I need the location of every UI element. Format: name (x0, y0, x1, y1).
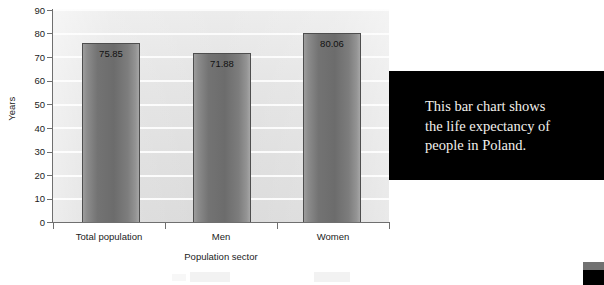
y-tick-label-40: 40 (1, 124, 45, 134)
x-tick-label-women: Women (277, 232, 389, 242)
y-axis-tick-labels: 0 10 20 30 40 50 60 70 80 90 (0, 0, 45, 285)
page-artifact-smudge-center (190, 272, 230, 282)
y-tick-label-30: 30 (1, 147, 45, 157)
x-axis-title: Population sector (53, 252, 389, 262)
bar-fill (83, 44, 139, 222)
y-tick-label-80: 80 (1, 29, 45, 39)
y-tick-label-0: 0 (1, 218, 45, 228)
bar-value-men: 71.88 (194, 59, 250, 69)
bar-value-women: 80.06 (304, 39, 360, 49)
x-tick-mark-3 (389, 223, 390, 229)
gridline-90 (53, 9, 389, 11)
bar-chart-figure: Years 0 10 20 30 40 50 60 70 80 90 (0, 0, 395, 285)
y-tick-label-60: 60 (1, 76, 45, 86)
y-tick-label-90: 90 (1, 6, 45, 16)
x-tick-mark-2 (277, 223, 278, 229)
y-axis-line (52, 9, 53, 223)
page-artifact-smudge-left (172, 274, 186, 281)
y-tick-label-70: 70 (1, 53, 45, 63)
x-tick-mark-0 (53, 223, 54, 229)
x-axis-line (52, 222, 390, 223)
x-tick-mark-1 (165, 223, 166, 229)
y-tick-label-50: 50 (1, 100, 45, 110)
page-artifact-smudge-right (314, 272, 350, 282)
bar-women[interactable]: 80.06 (303, 33, 361, 222)
bar-men[interactable]: 71.88 (193, 53, 251, 222)
y-tick-label-20: 20 (1, 171, 45, 181)
bar-fill (304, 34, 360, 222)
corner-color-swatch-top-band (583, 262, 604, 270)
bar-value-total-population: 75.85 (83, 49, 139, 59)
bar-fill (194, 54, 250, 222)
y-tick-label-10: 10 (1, 194, 45, 204)
corner-color-swatch (583, 262, 604, 285)
caption-panel: This bar chart shows the life expectancy… (389, 71, 604, 180)
x-tick-label-total-population: Total population (53, 232, 165, 242)
x-tick-label-men: Men (165, 232, 277, 242)
bar-total-population[interactable]: 75.85 (82, 43, 140, 222)
plot-area: 75.85 71.88 80.06 (53, 9, 389, 222)
caption-text: This bar chart shows the life expectancy… (425, 97, 590, 156)
